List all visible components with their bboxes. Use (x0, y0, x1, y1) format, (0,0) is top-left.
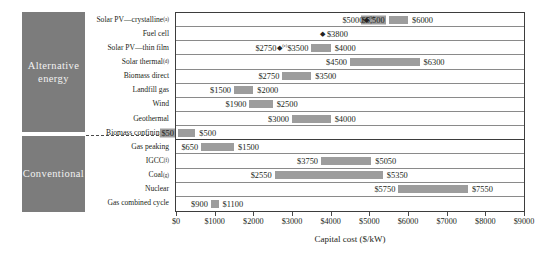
bar-value-high: $3800 (327, 29, 348, 38)
bar-value-high: $3500 (315, 72, 336, 81)
bar-value-high: $2000 (257, 86, 278, 95)
chart-row: $2550$5350 (176, 169, 524, 183)
marker-value: $2750 (255, 43, 276, 52)
axis-tick (485, 212, 486, 216)
axis-tick-label: $7000 (436, 217, 456, 226)
chart-row: $1900$2500 (176, 98, 524, 112)
category-label: Gas peaking (60, 139, 173, 153)
category-label: Solar PV—crystalline(a) (60, 12, 173, 26)
range-bar (201, 143, 234, 151)
axis-tick (408, 212, 409, 216)
bar-value-high: $500 (199, 128, 216, 137)
range-bar (282, 72, 311, 80)
bar-value-low: $900 (191, 199, 208, 208)
x-axis-label: Capital cost ($/kW) (175, 234, 525, 244)
x-axis: $0$1000$2000$3000$4000$5000$6000$7000$80… (175, 212, 525, 234)
point-marker-diamond: ◆ (320, 30, 325, 37)
category-label-column: Solar PV—crystalline(a)Fuel cellSolar PV… (60, 12, 173, 212)
chart-row: $3000$4000 (176, 112, 524, 126)
bar-value-low: $3500 (287, 43, 308, 52)
category-label: Nuclear (60, 182, 173, 196)
axis-tick-label: $1000 (204, 217, 224, 226)
axis-tick (215, 212, 216, 216)
category-label: IGCC(f) (60, 153, 173, 167)
category-label: Wind (60, 97, 173, 111)
category-label: Solar thermal(d) (60, 54, 173, 68)
bar-value-low: $5750 (374, 185, 395, 194)
bar-value-low: $3000 (268, 114, 289, 123)
chart-row: $1500$2000 (176, 84, 524, 98)
range-bar (249, 100, 272, 108)
bar-value-high: $5050 (375, 156, 396, 165)
bar-value-low: $2550 (251, 171, 272, 180)
category-label: Biomass direct (60, 69, 173, 83)
range-bar (398, 185, 468, 193)
range-bar (234, 86, 253, 94)
axis-tick (447, 212, 448, 216)
category-label: Biomass confining(e) (60, 125, 173, 139)
chart-row: $650$1500 (176, 140, 524, 154)
axis-tick-label: $2000 (243, 217, 263, 226)
bar-value-low: $1500 (210, 86, 231, 95)
axis-tick-label: $8000 (475, 217, 495, 226)
bar-value-low: $650 (181, 142, 198, 151)
bar-value-high: $7550 (472, 185, 493, 194)
bar-value-low: $50 (160, 128, 175, 137)
category-label: Gas combined cycle (60, 196, 173, 210)
bar-value-high: $4000 (335, 114, 356, 123)
point-marker-diamond: ◆(c) (277, 44, 287, 52)
range-bar (311, 44, 330, 52)
chart-row: $3750$5050 (176, 154, 524, 168)
axis-tick-label: $4000 (320, 217, 340, 226)
bar-value-low: $2750 (258, 72, 279, 81)
category-label: Fuel cell (60, 26, 173, 40)
category-label: Landfill gas (60, 83, 173, 97)
axis-tick-label: $0 (172, 217, 180, 226)
range-bar (178, 129, 195, 137)
bar-value-high: $5350 (387, 171, 408, 180)
axis-tick (292, 212, 293, 216)
range-bar (321, 157, 371, 165)
bar-value-high: $6000 (412, 15, 433, 24)
axis-tick-label: $6000 (398, 217, 418, 226)
chart-row: $3800◆ (176, 27, 524, 41)
chart-row: $5750$7550 (176, 183, 524, 197)
range-bar (275, 171, 383, 179)
bar-value-high: $1100 (223, 199, 244, 208)
chart-row: $3500$4000◆(c)$2750 (176, 41, 524, 55)
category-label: Geothermal (60, 111, 173, 125)
axis-tick-label: $3000 (282, 217, 302, 226)
category-label: Coal(g) (60, 168, 173, 182)
bar-value-low: $1900 (226, 100, 247, 109)
bar-value-high: $4000 (335, 43, 356, 52)
bar-value-low: $3750 (297, 156, 318, 165)
axis-tick (524, 212, 525, 216)
bar-value-high: $1500 (238, 142, 259, 151)
axis-tick (253, 212, 254, 216)
chart-row: $900$1100 (176, 197, 524, 211)
chart-row: $4500$6300 (176, 55, 524, 69)
category-label: Solar PV—thin film (60, 40, 173, 54)
plot-area: $5,500$6000◆(b)$5000$3800◆$3500$4000◆(c)… (175, 12, 525, 212)
range-bar (389, 16, 408, 24)
axis-tick-label: $9000 (514, 217, 534, 226)
bar-value-high: $2500 (277, 100, 298, 109)
axis-tick (176, 212, 177, 216)
axis-tick (369, 212, 370, 216)
axis-tick (331, 212, 332, 216)
chart-row: $50$500 (176, 126, 524, 140)
marker-value: $5000 (342, 15, 363, 24)
bar-value-high: $6300 (424, 57, 445, 66)
chart-row: $5,500$6000◆(b)$5000 (176, 13, 524, 27)
point-marker-diamond: ◆(b) (364, 15, 374, 23)
axis-tick-label: $5000 (359, 217, 379, 226)
range-bar (211, 200, 219, 208)
chart-row: $2750$3500 (176, 70, 524, 84)
range-bar (292, 115, 331, 123)
bar-value-low: $4500 (326, 57, 347, 66)
chart-figure: Alternative energy Conventional Solar PV… (0, 0, 546, 260)
range-bar (350, 58, 420, 66)
